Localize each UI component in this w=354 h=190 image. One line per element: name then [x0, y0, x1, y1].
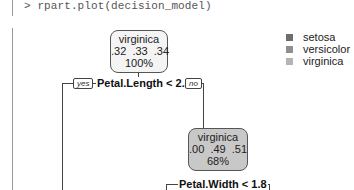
connector-split2-left: [166, 184, 167, 190]
console-command: > rpart.plot(decision_model): [24, 0, 212, 12]
legend-item-virginica: virginica: [286, 55, 350, 67]
connector-right-down: [203, 83, 204, 128]
node2-pct: 68%: [189, 155, 247, 167]
root-node: virginica .32 .33 .34 100%: [110, 30, 168, 73]
console-gutter-plot: [12, 28, 13, 190]
legend-swatch-virginica: [286, 58, 293, 65]
console-gutter-top: [12, 0, 13, 16]
legend: setosa versicolor virginica: [286, 31, 350, 67]
root-node-class: virginica: [111, 33, 167, 45]
yes-label: yes: [73, 78, 93, 89]
node2-class: virginica: [189, 131, 247, 143]
legend-item-setosa: setosa: [286, 31, 350, 43]
no-label: no: [185, 78, 202, 89]
legend-swatch-versicolor: [286, 46, 293, 53]
root-node-probs: .32 .33 .34: [111, 45, 167, 57]
legend-label-setosa: setosa: [303, 31, 335, 43]
legend-swatch-setosa: [286, 34, 293, 41]
split1-label: Petal.Length < 2.5: [96, 77, 192, 89]
connector-split2-right: [269, 184, 270, 190]
root-node-pct: 100%: [111, 57, 167, 69]
legend-label-versicolor: versicolor: [303, 43, 350, 55]
legend-item-versicolor: versicolor: [286, 43, 350, 55]
node2: virginica .00 .49 .51 68%: [188, 128, 248, 171]
connector-left-down: [62, 83, 63, 190]
legend-label-virginica: virginica: [303, 55, 343, 67]
split2-label: Petal.Width < 1.8: [178, 178, 268, 190]
node2-probs: .00 .49 .51: [189, 143, 247, 155]
